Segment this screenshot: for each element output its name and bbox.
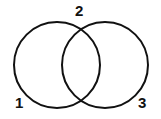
region-label-1: 1 bbox=[15, 95, 23, 110]
region-label-2: 2 bbox=[75, 3, 83, 18]
region-label-3: 3 bbox=[138, 95, 146, 110]
diagram-canvas: 1 2 3 bbox=[0, 0, 161, 119]
